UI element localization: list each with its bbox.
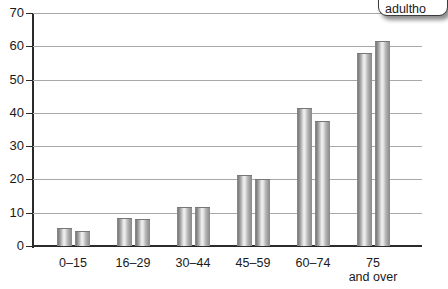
bar: [297, 108, 312, 246]
x-tick-label: 75and over: [328, 256, 418, 284]
callout-label: adultho: [385, 2, 426, 16]
y-tick-label-30: 30: [0, 139, 24, 152]
bar-group: [357, 13, 390, 246]
bar: [135, 219, 150, 246]
bar-group: [177, 13, 210, 246]
bar: [375, 41, 390, 246]
bar: [237, 175, 252, 246]
y-tick-label-50: 50: [0, 73, 24, 86]
y-tick-label-20: 20: [0, 172, 24, 185]
y-tick-mark-10: [26, 213, 33, 214]
y-tick-mark-20: [26, 179, 33, 180]
x-tick-label-line2: and over: [328, 270, 418, 284]
y-tick-mark-40: [26, 113, 33, 114]
x-tick-label-line1: 75: [328, 256, 418, 270]
bar: [177, 207, 192, 246]
bar-group: [117, 13, 150, 246]
y-tick-label-70: 70: [0, 6, 24, 19]
bar: [315, 121, 330, 246]
callout-box: adultho: [378, 0, 448, 16]
bar: [57, 228, 72, 246]
y-tick-mark-30: [26, 146, 33, 147]
bar: [117, 218, 132, 246]
y-tick-mark-70: [26, 13, 33, 14]
bar: [75, 231, 90, 246]
plot-area: [33, 13, 422, 246]
y-tick-label-40: 40: [0, 106, 24, 119]
y-tick-label-60: 60: [0, 39, 24, 52]
y-tick-mark-60: [26, 46, 33, 47]
bar: [357, 53, 372, 246]
y-tick-label-10: 10: [0, 206, 24, 219]
y-tick-mark-0: [26, 246, 33, 247]
y-tick-mark-50: [26, 80, 33, 81]
bar-group: [57, 13, 90, 246]
y-tick-label-0: 0: [0, 239, 24, 252]
bar-group: [297, 13, 330, 246]
bar: [195, 207, 210, 246]
bar: [255, 179, 270, 246]
bar-group: [237, 13, 270, 246]
